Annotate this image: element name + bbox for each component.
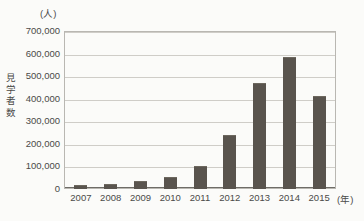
bar-slot: [96, 31, 126, 189]
x-axis-tick-label: 2007: [66, 192, 96, 203]
bar: [253, 83, 266, 189]
y-axis-tick-label: 300,000: [2, 116, 60, 126]
bar: [223, 135, 236, 189]
bar-slot: [66, 31, 96, 189]
bar: [283, 57, 296, 189]
bar-slot: [155, 31, 185, 189]
x-axis-tick-labels: 200720082009201020112012201320142015: [64, 192, 336, 203]
x-axis-tick-label: 2008: [96, 192, 126, 203]
x-axis-tick-label: 2010: [155, 192, 185, 203]
bar-slot: [274, 31, 304, 189]
bar: [313, 96, 326, 189]
x-axis-tick-label: 2015: [304, 192, 334, 203]
bar-slot: [304, 31, 334, 189]
y-axis-tick-label: 0: [2, 184, 60, 194]
bar-slot: [126, 31, 156, 189]
bar-slot: [245, 31, 275, 189]
bar: [104, 184, 117, 189]
x-axis-tick-label: 2012: [215, 192, 245, 203]
x-axis-tick-label: 2013: [245, 192, 275, 203]
y-axis-tick-label: 200,000: [2, 139, 60, 149]
y-axis-tick-label: 100,000: [2, 161, 60, 171]
x-axis-tick-label: 2014: [274, 192, 304, 203]
bar: [164, 177, 177, 189]
y-axis-tick-label: 500,000: [2, 71, 60, 81]
x-axis-unit-label: (年): [337, 192, 353, 206]
y-axis-tick-label: 400,000: [2, 94, 60, 104]
bar-chart-figure: (人) 見 学 者 数 0100,000200,000300,000400,00…: [0, 0, 364, 221]
bar: [194, 166, 207, 189]
y-axis-tick-labels: 0100,000200,000300,000400,000500,000600,…: [0, 31, 60, 189]
y-axis-tick-label: 600,000: [2, 49, 60, 59]
x-axis-tick-label: 2009: [126, 192, 156, 203]
y-axis-tick-label: 700,000: [2, 26, 60, 36]
x-axis-tick-label: 2011: [185, 192, 215, 203]
bar: [74, 185, 87, 189]
bar-slot: [185, 31, 215, 189]
bar-slot: [215, 31, 245, 189]
bar: [134, 181, 147, 189]
bar-series: [64, 31, 336, 189]
y-axis-unit-label: (人): [40, 6, 56, 20]
